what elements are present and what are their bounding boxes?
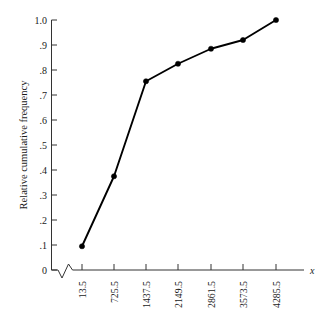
x-tick-label: 2149.5 (173, 281, 184, 308)
data-point (240, 37, 245, 42)
chart-container: Relative cumulative frequency 1.0 .9 .8 … (0, 0, 325, 328)
y-tick-label: .3 (40, 190, 48, 201)
chart-background (0, 0, 325, 328)
y-axis-title: Relative cumulative frequency (18, 80, 29, 210)
y-tick-label: .9 (40, 40, 48, 51)
x-tick-label: 725.5 (109, 281, 120, 303)
data-point (273, 17, 278, 22)
x-tick-label: 2861.5 (206, 281, 217, 308)
y-tick-label: .2 (40, 215, 48, 226)
y-tick-label: .8 (40, 65, 48, 76)
x-tick-label: 1437.5 (141, 281, 152, 308)
data-point (208, 46, 213, 51)
data-point (175, 61, 180, 66)
y-tick-label: .6 (40, 115, 48, 126)
x-tick-label: 13.5 (77, 281, 88, 298)
y-tick-label: 1.0 (35, 15, 48, 26)
data-point (143, 79, 148, 84)
cumulative-frequency-line-chart: Relative cumulative frequency 1.0 .9 .8 … (0, 0, 325, 328)
y-tick-label: .5 (40, 140, 48, 151)
x-axis-name: x (309, 265, 315, 276)
data-point (111, 174, 116, 179)
data-point (79, 244, 84, 249)
x-tick-label: 4285.5 (271, 281, 282, 308)
y-tick-label: .4 (40, 165, 48, 176)
x-tick-label: 3573.5 (238, 281, 249, 308)
y-tick-label: 0 (42, 265, 47, 276)
y-tick-label: .1 (40, 240, 48, 251)
y-tick-label: .7 (40, 90, 48, 101)
